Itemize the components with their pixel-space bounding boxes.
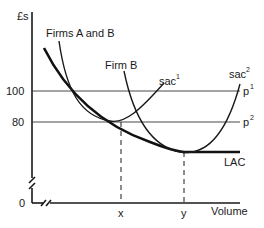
label-p1-sup: 1 <box>250 83 254 90</box>
y-axis-label: £s <box>17 10 29 22</box>
label-p1: p <box>243 85 249 97</box>
label-p2-sup: 2 <box>250 114 254 121</box>
label-firm-b: Firm B <box>105 59 137 71</box>
label-lac: LAC <box>224 156 245 168</box>
label-sac2: sac <box>229 68 247 80</box>
tick-80: 80 <box>12 116 24 128</box>
label-sac1: sac <box>159 75 177 87</box>
label-p2: p <box>243 116 249 128</box>
tick-x: x <box>118 207 124 219</box>
x-axis-label: Volume <box>211 205 248 217</box>
tick-y: y <box>181 207 187 219</box>
cost-curves-diagram: £s Firms A and B Firm B sac 1 sac 2 p 1 … <box>0 0 264 228</box>
label-sac2-sup: 2 <box>246 66 250 73</box>
tick-100: 100 <box>6 85 24 97</box>
axes <box>29 12 240 206</box>
tick-0: 0 <box>19 197 25 209</box>
sac1-curve <box>59 41 164 121</box>
lac-curve <box>44 48 240 152</box>
label-firms-a-and-b: Firms A and B <box>46 27 114 39</box>
sac2-curve <box>124 71 240 152</box>
label-sac1-sup: 1 <box>176 73 180 80</box>
